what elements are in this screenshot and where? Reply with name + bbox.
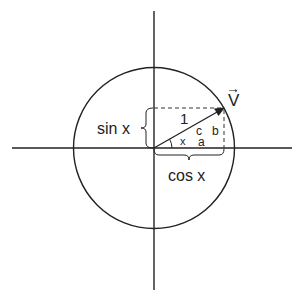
sin-brace xyxy=(141,108,153,148)
cos-brace xyxy=(154,149,224,160)
cos-label: cos x xyxy=(168,167,205,184)
unit-circle-diagram: → V 1 sin x cos x x c a b xyxy=(0,0,303,298)
vector-arrowhead-icon xyxy=(214,108,225,117)
side-a-label: a xyxy=(198,135,205,149)
angle-label: x xyxy=(180,135,186,147)
hypotenuse-label: 1 xyxy=(180,110,188,127)
vector-label: V xyxy=(228,91,240,110)
sin-label: sin x xyxy=(97,120,130,137)
angle-arc xyxy=(170,139,173,148)
side-b-label: b xyxy=(212,124,219,138)
